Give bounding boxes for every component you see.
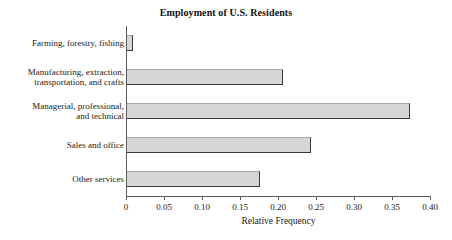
x-axis-tick-label: 0.25 [308, 202, 324, 212]
x-axis-tick [392, 196, 393, 200]
plot-area: 00.050.100.150.200.250.300.350.40 [126, 26, 430, 196]
x-axis-tick-label: 0.10 [194, 202, 210, 212]
bar [127, 171, 260, 187]
x-axis-tick [316, 196, 317, 200]
x-axis-tick-label: 0 [124, 202, 129, 212]
x-axis-tick-label: 0.30 [346, 202, 362, 212]
category-label: Managerial, professional, and technical [2, 101, 124, 122]
x-axis-tick [126, 196, 127, 200]
x-axis-tick-label: 0.05 [156, 202, 172, 212]
bar-chart: Employment of U.S. Residents Farming, fo… [0, 0, 452, 240]
category-label: Other services [2, 174, 124, 185]
category-label: Sales and office [2, 140, 124, 151]
x-axis-tick-label: 0.40 [422, 202, 438, 212]
category-label: Farming, forestry, fishing [2, 38, 124, 49]
bar [127, 103, 410, 119]
bar [127, 137, 311, 153]
bar [127, 35, 133, 51]
bar [127, 69, 283, 85]
x-axis-tick [240, 196, 241, 200]
cropped-header-text [0, 0, 452, 4]
category-label: Manufacturing, extraction, transportatio… [2, 67, 124, 88]
x-axis-tick-label: 0.20 [270, 202, 286, 212]
chart-title: Employment of U.S. Residents [0, 7, 452, 18]
x-axis-tick-label: 0.35 [384, 202, 400, 212]
x-axis-tick [278, 196, 279, 200]
x-axis-tick [430, 196, 431, 200]
x-axis-tick-label: 0.15 [232, 202, 248, 212]
x-axis-tick [164, 196, 165, 200]
x-axis-tick [354, 196, 355, 200]
x-axis-title: Relative Frequency [126, 216, 431, 226]
x-axis-tick [202, 196, 203, 200]
category-axis-labels: Farming, forestry, fishingManufacturing,… [0, 26, 124, 196]
